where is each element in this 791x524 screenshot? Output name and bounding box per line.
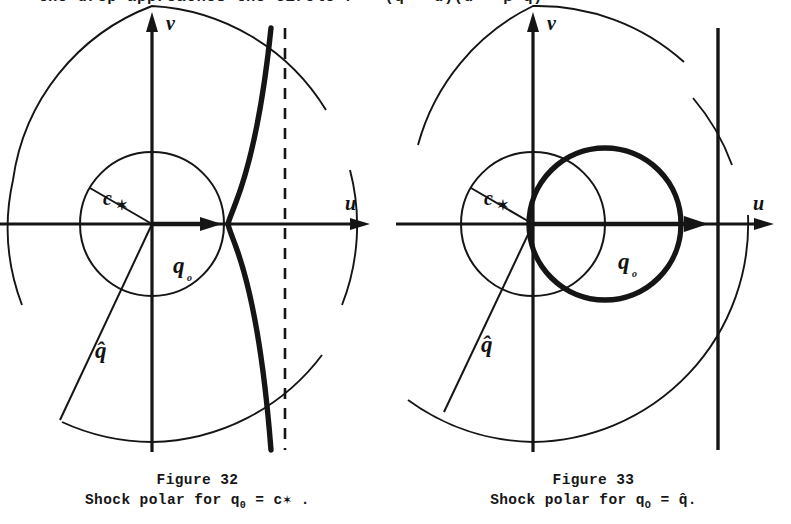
figure-32-number: Figure 32 xyxy=(0,470,395,490)
svg-text:c: c xyxy=(484,187,493,209)
figure-32-drawing: v u c ✶ q o q̂ xyxy=(0,10,395,470)
figure-33-drawing: v u c ✶ q o q̂ xyxy=(396,10,791,470)
caption-tail: ✶ . xyxy=(283,492,310,508)
figure-32: v u c ✶ q o q̂ xyxy=(0,10,395,470)
top-formula-text: the drop approaches the circle r = (q̂ -… xyxy=(38,0,543,6)
bold-cusped-shock-polar xyxy=(228,28,271,450)
figures-container: v u c ✶ q o q̂ xyxy=(0,10,791,470)
u-axis-label: u xyxy=(753,192,764,214)
q-hat-radius-line xyxy=(444,224,533,412)
figure-33-number: Figure 33 xyxy=(396,470,791,490)
svg-text:✶: ✶ xyxy=(116,197,128,213)
svg-text:✶: ✶ xyxy=(497,197,509,213)
caption-prefix: Shock polar for q xyxy=(490,492,645,508)
q-hat-label: q̂ xyxy=(95,338,107,363)
svg-text:c: c xyxy=(103,187,112,209)
caption-equals: = xyxy=(651,492,678,508)
q-hat-label: q̂ xyxy=(481,332,493,357)
q0-arrow xyxy=(152,217,222,231)
figure-33: v u c ✶ q o q̂ xyxy=(396,10,791,470)
q-hat-radius-line xyxy=(60,224,152,420)
figure-32-caption-line2: Shock polar for q0 = c✶ . xyxy=(0,490,395,516)
q0-label: q o xyxy=(618,249,637,279)
figure-33-caption: Figure 33 Shock polar for qO = q̂. xyxy=(396,470,791,516)
svg-text:o: o xyxy=(632,268,637,279)
q0-label: q o xyxy=(173,253,192,283)
caption-equals: = c xyxy=(246,492,282,508)
figure-33-caption-line2: Shock polar for qO = q̂. xyxy=(396,490,791,516)
svg-text:q: q xyxy=(173,253,185,278)
figure-32-caption: Figure 32 Shock polar for q0 = c✶ . xyxy=(0,470,395,516)
v-axis-label: v xyxy=(547,12,557,34)
svg-text:q: q xyxy=(618,249,630,274)
svg-text:o: o xyxy=(187,272,192,283)
u-axis-label: u xyxy=(345,192,356,214)
caption-prefix: Shock polar for q xyxy=(85,492,240,508)
caption-tail: q̂. xyxy=(679,492,697,508)
c-star-label: c ✶ xyxy=(103,187,128,213)
c-star-label: c ✶ xyxy=(484,187,509,213)
v-axis-label: v xyxy=(166,12,176,34)
